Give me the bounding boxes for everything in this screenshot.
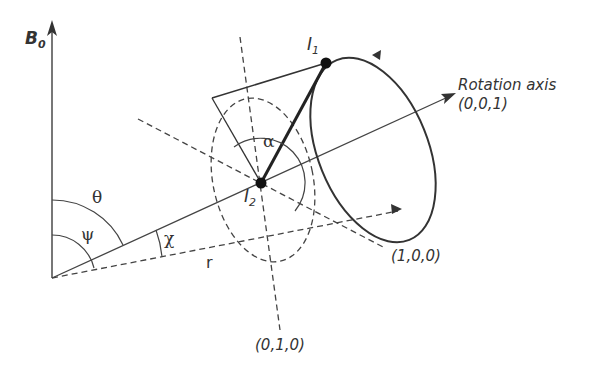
- y-axis-label: (0,1,0): [255, 338, 305, 353]
- i1-point: [321, 58, 332, 69]
- i1-i2-bond: [261, 63, 326, 183]
- i2-point: [256, 178, 267, 189]
- psi-label: ψ: [81, 226, 94, 243]
- i1-label: I1: [307, 36, 319, 53]
- x-axis-label: (1,0,0): [391, 249, 441, 264]
- rotation-arrow-top-icon: [372, 50, 381, 60]
- b0-label-sub: 0: [38, 38, 46, 51]
- theta-label: θ: [92, 189, 102, 206]
- r-label: r: [206, 255, 213, 271]
- chi-arc: [156, 230, 162, 257]
- chi-label: χ: [164, 230, 174, 247]
- rotation-arrow-bottom-icon: [391, 204, 402, 214]
- i1-label-sub: 1: [312, 44, 319, 57]
- i2-label-sub: 2: [249, 196, 256, 209]
- i2-label: I2: [244, 188, 256, 205]
- alpha-label: α: [263, 133, 274, 150]
- dipolar-geometry-diagram: [0, 0, 594, 375]
- internuclear-vector-r: [52, 211, 398, 278]
- rotation-axis-coord: (0,0,1): [458, 95, 556, 114]
- rotation-axis-title: Rotation axis: [458, 76, 556, 95]
- b0-label-main: B: [25, 28, 38, 48]
- b0-axis: [47, 20, 57, 278]
- b0-label: B0: [25, 30, 46, 47]
- rotation-axis-label: Rotation axis (0,0,1): [458, 76, 556, 114]
